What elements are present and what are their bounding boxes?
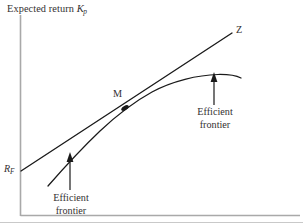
tangency-point-label-m: M — [113, 88, 122, 99]
efficient-frontier-left-arrow — [67, 152, 74, 190]
y-axis-title-subscript: p — [83, 7, 87, 16]
efficient-frontier-right-arrow — [211, 72, 218, 105]
efficient-frontier-right-line1: Efficient — [184, 106, 246, 119]
efficient-frontier-left-line1: Efficient — [40, 192, 102, 205]
line-end-label-z: Z — [236, 24, 242, 35]
risk-free-rate-label: RF — [4, 163, 15, 176]
efficient-frontier-left-label: Efficient frontier — [40, 192, 102, 218]
plot-canvas — [0, 0, 303, 224]
capital-market-line — [21, 33, 232, 171]
efficient-frontier-right-line2: frontier — [184, 119, 246, 132]
y-axis-title-text: Expected return — [7, 3, 77, 14]
risk-free-rate-subscript: F — [10, 168, 14, 176]
y-axis-title: Expected return Kp — [7, 3, 87, 16]
efficient-frontier-right-label: Efficient frontier — [184, 106, 246, 132]
efficient-frontier-left-line2: frontier — [40, 205, 102, 218]
capital-market-line-figure: Expected return Kp RF Z M Efficient fron… — [0, 0, 303, 224]
